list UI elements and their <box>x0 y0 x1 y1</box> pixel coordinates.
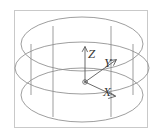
origin-marker-dot <box>84 81 86 83</box>
cylinder-coordinate-diagram: Z Y X <box>0 0 163 138</box>
diagram-canvas: Z Y X <box>0 0 163 138</box>
z-axis-label: Z <box>88 46 96 61</box>
background-rect <box>0 0 163 138</box>
x-axis-label: X <box>102 84 112 99</box>
